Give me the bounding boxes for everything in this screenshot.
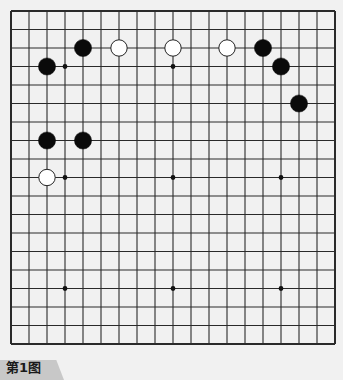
- star-point: [279, 175, 284, 180]
- white-stone[interactable]: [165, 40, 181, 56]
- white-stone[interactable]: [219, 40, 235, 56]
- star-point: [279, 286, 284, 291]
- star-point: [63, 64, 68, 69]
- white-stone[interactable]: [111, 40, 127, 56]
- star-point: [171, 286, 176, 291]
- star-point: [171, 175, 176, 180]
- black-stone[interactable]: [74, 39, 91, 56]
- star-point: [63, 175, 68, 180]
- black-stone[interactable]: [38, 58, 55, 75]
- star-point: [171, 64, 176, 69]
- diagram-caption-label: 第1图: [6, 361, 41, 375]
- diagram-caption-tab: 第1图: [0, 360, 64, 380]
- star-point: [63, 286, 68, 291]
- black-stone[interactable]: [290, 95, 307, 112]
- white-stone[interactable]: [39, 169, 55, 185]
- black-stone[interactable]: [38, 132, 55, 149]
- black-stone[interactable]: [272, 58, 289, 75]
- black-stone[interactable]: [254, 39, 271, 56]
- black-stone[interactable]: [74, 132, 91, 149]
